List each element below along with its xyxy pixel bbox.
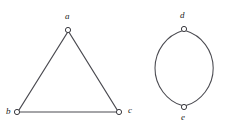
edge-d-e-right	[186, 31, 213, 106]
vertex-label-c: c	[128, 106, 132, 115]
vertex-nodes	[14, 26, 186, 114]
edge-a-b	[19, 32, 68, 111]
vertex-node-c	[116, 109, 121, 114]
vertex-label-e: e	[181, 113, 185, 122]
vertex-label-b: b	[6, 107, 11, 116]
vertex-node-e	[181, 104, 186, 109]
lens-edges	[155, 31, 213, 106]
vertex-node-d	[181, 26, 186, 31]
edge-a-c	[69, 32, 118, 111]
graph-figure: a b c d e	[0, 0, 225, 124]
vertex-label-d: d	[180, 11, 185, 20]
vertex-node-a	[65, 27, 70, 32]
edge-d-e-left	[155, 31, 182, 106]
vertex-label-a: a	[65, 12, 70, 21]
triangle-edges	[19, 32, 118, 112]
vertex-node-b	[14, 109, 19, 114]
graph-canvas	[0, 0, 225, 124]
